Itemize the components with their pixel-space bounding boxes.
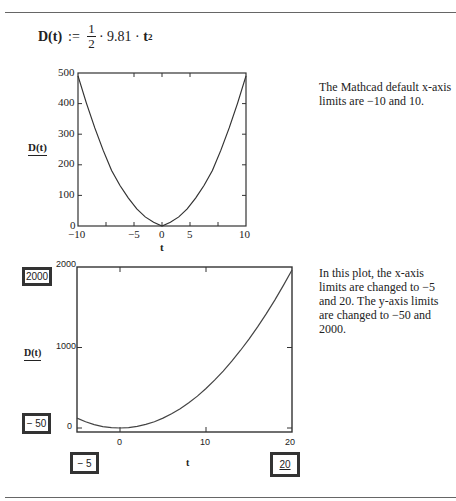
plot1-xtick-neg10: −10 <box>68 228 85 240</box>
plot1-xtick-5: 5 <box>187 228 193 240</box>
note-line: limits are −10 and 10. <box>319 94 451 108</box>
plot1-xlabel[interactable]: t <box>160 241 164 253</box>
plot1-xtick-0: 0 <box>159 228 165 240</box>
plot2-ymax-limit-field[interactable]: 2000 <box>22 267 52 286</box>
plot1-xtick-neg5: −5 <box>128 228 140 240</box>
plot1-ytick-200: 200 <box>58 157 75 169</box>
note-line: In this plot, the x-axis <box>319 266 438 280</box>
plot2-xtick-0: 0 <box>117 437 122 447</box>
plot2-xlabel[interactable]: t <box>186 457 189 468</box>
plot1-note: The Mathcad default x-axis limits are −1… <box>319 80 451 108</box>
note-line: The Mathcad default x-axis <box>319 80 451 94</box>
plot2-ymin-limit-field[interactable]: − 50 <box>22 413 51 434</box>
note-line: 2000. <box>319 322 438 336</box>
plot1-ylabel[interactable]: D(t) <box>28 141 47 156</box>
plot2-xtick-20: 20 <box>285 437 295 447</box>
plot2-xtick-10: 10 <box>200 437 210 447</box>
note-line: are changed to −50 and <box>319 308 438 322</box>
plot1-ytick-400: 400 <box>58 96 75 108</box>
plot2-ytick-1000: 1000 <box>56 341 76 351</box>
plot2-xmax-limit-field[interactable]: 20 <box>270 452 300 477</box>
plot2-frame[interactable] <box>77 267 292 432</box>
plot2-ylabel[interactable]: D(t) <box>24 347 41 361</box>
plot2-note: In this plot, the x-axis limits are chan… <box>319 266 438 336</box>
note-line: and 20. The y-axis limits <box>319 294 438 308</box>
plot1-xtick-10: 10 <box>239 228 250 240</box>
plot2-ytick-0: 0 <box>67 421 72 431</box>
plot2-ticks <box>77 267 292 432</box>
plot2-xmin-limit-field[interactable]: − 5 <box>70 452 99 474</box>
note-line: limits are changed to −5 <box>319 280 438 294</box>
plot2-curve <box>77 270 292 428</box>
plot1-ytick-100: 100 <box>58 188 75 200</box>
plot1-curve <box>78 76 246 226</box>
plot2-ytick-2000: 2000 <box>56 259 76 269</box>
plot1-ytick-500: 500 <box>58 66 75 78</box>
plot1-ytick-300: 300 <box>58 127 75 139</box>
